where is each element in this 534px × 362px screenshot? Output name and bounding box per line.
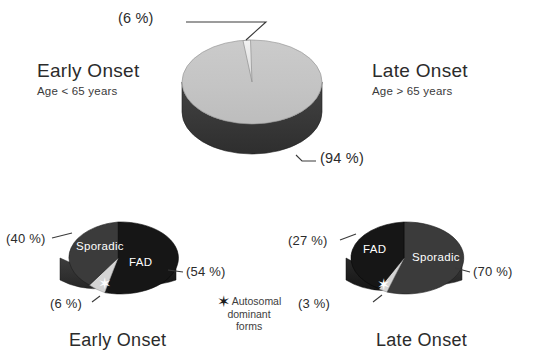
bl-label-sporadic: Sporadic bbox=[76, 240, 124, 252]
br-star-icon: ✶ bbox=[377, 278, 390, 292]
legend-line-1: Autosomal bbox=[232, 295, 282, 307]
legend-line-3: forms bbox=[236, 320, 262, 332]
top-callout-large: (94 %) bbox=[320, 150, 364, 166]
bl-callout-fad: (54 %) bbox=[186, 264, 226, 279]
top-pie-leader-large bbox=[296, 155, 316, 161]
bl-leader-autosomal bbox=[92, 296, 100, 302]
bl-star-icon: ✶ bbox=[98, 277, 111, 291]
bottom-left-pie-chart bbox=[52, 222, 183, 302]
bottom-left-title: Early Onset bbox=[69, 330, 166, 351]
br-leader-fad bbox=[340, 234, 356, 240]
br-label-fad: FAD bbox=[363, 243, 386, 255]
top-callout-small: (6 %) bbox=[118, 10, 154, 26]
early-onset-subheading: Age < 65 years bbox=[37, 85, 117, 97]
legend-line-2: dominant bbox=[227, 308, 270, 320]
br-callout-fad: (27 %) bbox=[288, 233, 328, 248]
late-onset-heading: Late Onset bbox=[372, 60, 468, 82]
top-pie-chart bbox=[182, 22, 322, 161]
bl-label-fad: FAD bbox=[129, 256, 152, 268]
legend-autosomal-dominant: ✶Autosomal dominant forms bbox=[203, 295, 295, 333]
br-callout-sporadic: (70 %) bbox=[473, 264, 513, 279]
bl-leader-sporadic bbox=[52, 233, 72, 238]
top-pie-leader-small bbox=[186, 22, 266, 40]
br-leader-autosomal bbox=[373, 295, 382, 302]
bl-callout-autosomal: (6 %) bbox=[50, 296, 82, 311]
br-callout-autosomal: (3 %) bbox=[298, 296, 330, 311]
bottom-right-title: Late Onset bbox=[376, 330, 467, 351]
figure-canvas: (6 %) (94 %) Early Onset Age < 65 years … bbox=[0, 0, 534, 362]
br-label-sporadic: Sporadic bbox=[412, 251, 460, 263]
bl-callout-sporadic: (40 %) bbox=[6, 231, 46, 246]
late-onset-subheading: Age > 65 years bbox=[372, 85, 452, 97]
early-onset-heading: Early Onset bbox=[37, 60, 140, 82]
